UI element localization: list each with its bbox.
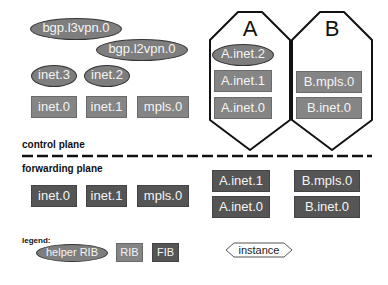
fib-b-inet0: B.inet.0: [294, 196, 360, 218]
helper-rib-inet3: inet.3: [31, 65, 77, 87]
forwarding-plane-label: forwarding plane: [22, 163, 103, 174]
legend-fib: FIB: [152, 243, 179, 262]
rib-inet0: inet.0: [31, 96, 77, 118]
legend-instance: instance: [226, 243, 292, 257]
rib-inet1: inet.1: [86, 96, 127, 118]
fib-a-inet1: A.inet.1: [212, 170, 270, 192]
rib-a-inet0: A.inet.0: [214, 97, 272, 119]
helper-rib-bgp-l3vpn: bgp.l3vpn.0: [30, 18, 122, 40]
instance-a-label: A: [236, 16, 264, 42]
legend-helper-rib: helper RIB: [36, 244, 108, 262]
legend-rib: RIB: [116, 243, 143, 262]
fib-inet1: inet.1: [86, 185, 127, 207]
fib-mpls0: mpls.0: [137, 185, 189, 207]
legend-label: legend:: [22, 236, 50, 245]
fib-b-mpls0: B.mpls.0: [294, 170, 360, 192]
instance-b-label: B: [318, 16, 346, 42]
rib-b-mpls0: B.mpls.0: [296, 71, 362, 93]
rib-mpls0: mpls.0: [137, 96, 189, 118]
helper-rib-bgp-l2vpn: bgp.l2vpn.0: [96, 39, 188, 61]
helper-rib-inet2: inet.2: [84, 65, 130, 87]
fib-a-inet0: A.inet.0: [212, 196, 270, 218]
fib-inet0: inet.0: [31, 185, 77, 207]
rib-a-inet1: A.inet.1: [214, 70, 272, 92]
rib-b-inet0: B.inet.0: [296, 97, 362, 119]
control-plane-label: control plane: [22, 139, 85, 150]
helper-rib-a-inet2: A.inet.2: [212, 44, 274, 66]
